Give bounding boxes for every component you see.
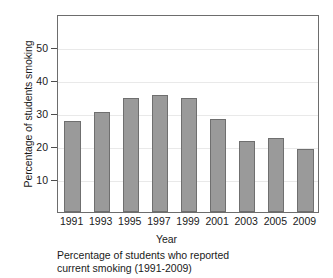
y-tick-label-40: 40 — [20, 76, 48, 86]
x-tick-label-1999: 1999 — [173, 216, 202, 227]
y-tick-label-50: 50 — [20, 43, 48, 53]
gridline-50 — [58, 49, 318, 50]
y-tick-label-10: 10 — [20, 175, 48, 185]
bar-2005 — [268, 138, 284, 212]
x-tick-label-1991: 1991 — [57, 216, 86, 227]
bar-2003 — [239, 141, 255, 212]
x-tick-label-1993: 1993 — [86, 216, 115, 227]
bar-2001 — [210, 119, 226, 212]
x-tick-label-2003: 2003 — [232, 216, 261, 227]
y-tick-label-20: 20 — [20, 142, 48, 152]
plot-area — [57, 15, 319, 213]
x-tick-label-2005: 2005 — [261, 216, 290, 227]
gridline-40 — [58, 82, 318, 83]
bar-chart-figure: Percentage of students smoking 102030405… — [0, 0, 333, 278]
x-axis-title: Year — [0, 233, 333, 245]
bar-2009 — [297, 149, 313, 212]
x-tick-label-1997: 1997 — [144, 216, 173, 227]
bar-1993 — [94, 112, 110, 212]
x-tick-label-1995: 1995 — [115, 216, 144, 227]
x-tick-label-2001: 2001 — [203, 216, 232, 227]
y-tick-label-30: 30 — [20, 109, 48, 119]
bar-1995 — [123, 98, 139, 212]
bar-1997 — [152, 95, 168, 212]
caption-line-2: current smoking (1991-2009) — [57, 262, 327, 275]
caption-line-1: Percentage of students who reported — [57, 249, 327, 262]
figure-caption: Percentage of students who reported curr… — [57, 249, 327, 275]
bar-1991 — [64, 121, 80, 212]
x-tick-label-2009: 2009 — [290, 216, 319, 227]
bar-1999 — [181, 98, 197, 212]
